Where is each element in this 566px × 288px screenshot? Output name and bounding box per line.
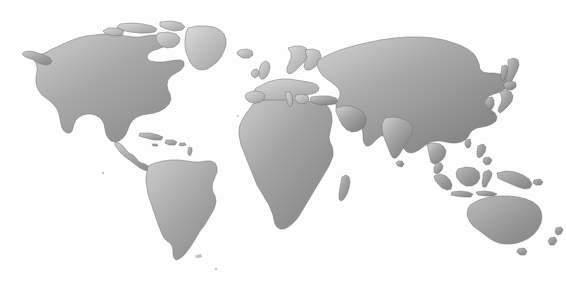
world-map-svg xyxy=(0,0,566,288)
landmass-jamaica xyxy=(152,144,158,146)
landmass-taiwan xyxy=(465,139,471,148)
map-page: World Map xyxy=(0,0,566,288)
island-speck-pacific xyxy=(215,268,217,270)
landmass-hokkaido xyxy=(504,81,516,90)
world-map-figure: World Map xyxy=(0,0,566,288)
island-speck-azores xyxy=(237,115,239,117)
island-speck-atlantic xyxy=(102,172,104,174)
